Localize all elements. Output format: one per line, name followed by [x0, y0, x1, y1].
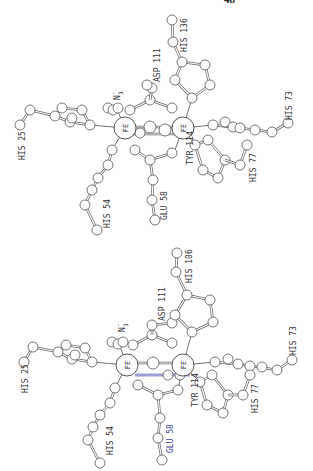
residue-his-73: [208, 117, 293, 137]
structure-drawing: FE FE HIS 25 HIS 54 GLU 58 HIS 73 HIS 77…: [0, 0, 313, 240]
azide-ligand: [107, 337, 128, 349]
residue-glu-58: [133, 380, 183, 465]
label-his-77: HIS 77: [251, 384, 260, 413]
label-azide: N 3 -: [109, 91, 124, 100]
fe-label-1: FE: [124, 361, 132, 369]
residue-tyr-114: [190, 135, 230, 183]
fe-label-1: FE: [122, 124, 130, 132]
svg-text:3: 3: [117, 91, 124, 95]
residue-his-25: [15, 103, 95, 130]
label-asp-111: ASP 111: [158, 287, 167, 321]
label-his-106: HIS 106: [185, 249, 194, 283]
label-his-54: HIS 54: [106, 426, 115, 455]
label-tyr-114: TYR 114: [191, 373, 200, 407]
svg-text:-: -: [114, 323, 121, 327]
label-his-54: HIS 54: [103, 199, 112, 228]
label-his-73: HIS 73: [285, 91, 294, 120]
label-his-25: HIS 25: [18, 131, 27, 160]
label-glu-58: GLU 58: [166, 424, 175, 453]
structure-drawing: FE FE HIS 25 HIS 54 GLU 58 HIS 73 HIS 77…: [0, 235, 313, 471]
residue-glu-58: [130, 145, 177, 225]
label-his-106: HIS 136: [180, 18, 189, 52]
label-his-73: HIS 73: [289, 326, 298, 355]
residue-his-25: [19, 340, 97, 367]
residue-tyr-114: [195, 370, 233, 418]
svg-text:3: 3: [122, 323, 129, 327]
label-asp-111: ASP 111: [153, 48, 162, 82]
fe-label-2: FE: [180, 124, 188, 132]
label-glu-58: GLU 58: [160, 191, 169, 220]
svg-text:-: -: [109, 91, 116, 95]
residue-his-77: [225, 140, 252, 170]
label-his-25: HIS 25: [21, 364, 30, 393]
azide-ligand: [103, 103, 123, 115]
molecular-structure-bottom: FE FE HIS 25 HIS 54 GLU 58 HIS 73 HIS 77…: [0, 235, 313, 471]
label-his-77: HIS 77: [249, 153, 258, 182]
label-tyr-114: TYR 114: [186, 131, 195, 165]
fe-label-2: FE: [180, 361, 188, 369]
residue-asp-111: [142, 80, 157, 100]
label-azide: N 3 -: [114, 323, 129, 332]
molecular-structure-top: FE FE HIS 25 HIS 54 GLU 58 HIS 73 HIS 77…: [0, 0, 313, 240]
residue-his-106: [167, 15, 215, 103]
